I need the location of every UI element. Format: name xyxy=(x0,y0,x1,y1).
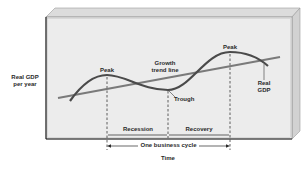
recovery-label: Recovery xyxy=(173,126,225,133)
real-gdp-label-line1: Real xyxy=(254,80,274,87)
arrowhead-right-icon xyxy=(226,144,230,147)
y-axis-label-line2: per year xyxy=(8,81,42,88)
real-gdp-label-line2: GDP xyxy=(254,87,274,94)
growth-trend-label-line1: Growth xyxy=(148,60,182,67)
panel-side-face xyxy=(292,8,300,139)
growth-trend-label-line2: trend line xyxy=(148,67,182,74)
trough-label: Trough xyxy=(174,96,198,103)
x-axis-label: Time xyxy=(156,155,180,162)
panel-top-face xyxy=(46,8,300,17)
y-axis-label: Real GDP per year xyxy=(8,74,42,88)
recession-label: Recession xyxy=(112,126,164,133)
y-axis-label-line1: Real GDP xyxy=(8,74,42,81)
growth-trend-label: Growth trend line xyxy=(148,60,182,74)
business-cycle-label: One business cycle xyxy=(138,142,199,149)
peak-right-label: Peak xyxy=(220,44,240,51)
arrowhead-left-icon xyxy=(107,144,111,147)
peak-left-label: Peak xyxy=(97,67,117,74)
real-gdp-label: Real GDP xyxy=(254,80,274,94)
